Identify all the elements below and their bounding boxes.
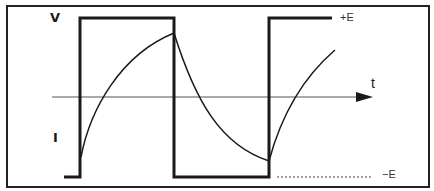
- response-curve-rise-2: [269, 50, 335, 161]
- current-label: I: [53, 131, 58, 144]
- voltage-label: V: [50, 11, 60, 24]
- response-curve-rise-1: [81, 33, 174, 157]
- time-axis-arrow-icon: [356, 92, 373, 102]
- positive-level-label: +E: [340, 12, 354, 23]
- time-axis-label: t: [371, 76, 375, 90]
- negative-level-label: −E: [382, 169, 396, 180]
- square-wave-diagram: [0, 0, 434, 191]
